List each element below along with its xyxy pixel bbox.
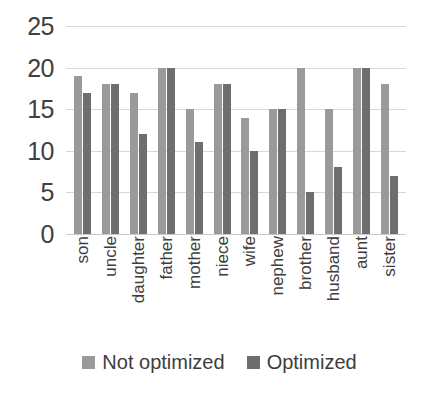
legend-swatch-icon — [247, 356, 260, 369]
x-axis-tick-label: husband — [325, 236, 342, 301]
bar-group — [152, 26, 180, 234]
bar — [74, 76, 82, 234]
y-axis-tick-label: 10 — [27, 138, 54, 163]
x-axis-label-cell: father — [152, 236, 180, 346]
bar — [381, 84, 389, 234]
bar — [353, 68, 361, 234]
x-axis-label-cell: husband — [319, 236, 347, 346]
x-axis-tick-label: nephew — [269, 236, 286, 296]
bar — [334, 167, 342, 234]
legend-item[interactable]: Optimized — [247, 352, 357, 372]
legend-label: Not optimized — [102, 352, 224, 372]
bar — [325, 109, 333, 234]
x-axis-label-cell: uncle — [97, 236, 125, 346]
x-axis-tick-label: niece — [214, 236, 231, 277]
x-axis-labels: sonuncledaughterfathermotherniecewifenep… — [66, 236, 406, 346]
bar — [362, 68, 370, 234]
x-axis-label-cell: son — [69, 236, 97, 346]
bar — [102, 84, 110, 234]
bar — [158, 68, 166, 234]
x-axis-tick-label: brother — [297, 236, 314, 290]
x-axis-tick-label: son — [74, 236, 91, 263]
y-axis-tick-label: 25 — [27, 14, 54, 39]
bar-group — [264, 26, 292, 234]
x-axis-tick-label: aunt — [353, 236, 370, 269]
bar-groups — [66, 26, 406, 234]
y-axis-tick-label: 20 — [27, 55, 54, 80]
y-axis: 0510152025 — [8, 20, 60, 240]
x-axis-label-cell: nephew — [264, 236, 292, 346]
bar — [195, 142, 203, 234]
bar — [83, 93, 91, 234]
x-axis-label-cell: aunt — [347, 236, 375, 346]
y-axis-tick-label: 15 — [27, 97, 54, 122]
axis-baseline — [66, 234, 406, 235]
bar-group — [208, 26, 236, 234]
bar-group — [292, 26, 320, 234]
legend-swatch-icon — [82, 356, 95, 369]
bar — [278, 109, 286, 234]
bar — [250, 151, 258, 234]
x-axis-label-cell: sister — [375, 236, 403, 346]
x-axis-label-cell: niece — [208, 236, 236, 346]
x-axis-tick-label: father — [158, 236, 175, 279]
x-axis-label-cell: daughter — [125, 236, 153, 346]
bar — [214, 84, 222, 234]
x-axis-tick-label: sister — [381, 236, 398, 277]
legend-label: Optimized — [267, 352, 357, 372]
bar-group — [375, 26, 403, 234]
x-axis-label-cell: mother — [180, 236, 208, 346]
chart-legend: Not optimizedOptimized — [0, 352, 439, 372]
bar-group — [236, 26, 264, 234]
bar — [390, 176, 398, 234]
bar-chart: 0510152025 sonuncledaughterfathermothern… — [0, 0, 439, 399]
bar — [223, 84, 231, 234]
x-axis-label-cell: brother — [292, 236, 320, 346]
plot-area — [66, 26, 406, 234]
bar — [111, 84, 119, 234]
bar — [167, 68, 175, 234]
bar — [139, 134, 147, 234]
bar — [269, 109, 277, 234]
x-axis-tick-label: daughter — [130, 236, 147, 303]
x-axis-tick-label: wife — [241, 236, 258, 266]
y-axis-tick-label: 5 — [41, 180, 54, 205]
bar — [241, 118, 249, 234]
x-axis-label-cell: wife — [236, 236, 264, 346]
bar-group — [97, 26, 125, 234]
bar-group — [180, 26, 208, 234]
x-axis-tick-label: uncle — [102, 236, 119, 277]
y-axis-tick-label: 0 — [41, 222, 54, 247]
x-axis-tick-label: mother — [186, 236, 203, 289]
bar — [297, 68, 305, 234]
bar-group — [319, 26, 347, 234]
bar-group — [125, 26, 153, 234]
bar-group — [69, 26, 97, 234]
legend-item[interactable]: Not optimized — [82, 352, 224, 372]
bar — [186, 109, 194, 234]
bar-group — [347, 26, 375, 234]
bar — [306, 192, 314, 234]
bar — [130, 93, 138, 234]
